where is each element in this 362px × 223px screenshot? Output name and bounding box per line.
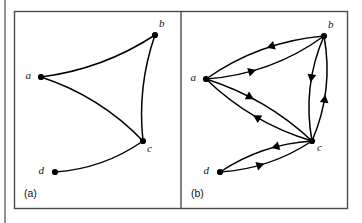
arrowhead-b-c-a (251, 111, 262, 123)
node-b-c[interactable] (309, 138, 315, 144)
node-a-d[interactable] (52, 169, 58, 175)
edge-b-a-c (206, 79, 312, 141)
edge-b-c-d (220, 141, 312, 172)
panel-caption-b: (b) (191, 187, 204, 199)
node-b-a[interactable] (203, 76, 209, 82)
arrowhead-b-c-d (270, 142, 280, 153)
node-label-a-c: c (147, 142, 152, 154)
node-b-d[interactable] (217, 169, 223, 175)
arrowhead-b-d-c (255, 160, 265, 171)
node-label-b-c: c (317, 141, 322, 153)
node-b-b[interactable] (321, 33, 327, 39)
node-label-a-d: d (39, 164, 45, 176)
arrowhead-b-b-a (265, 41, 275, 52)
node-a-c[interactable] (140, 138, 146, 144)
panel-a: abcd(a) (24, 17, 165, 199)
edge-b-c-b (312, 36, 327, 141)
edge-b-d-c (220, 141, 312, 172)
figure-canvas: abcd(a)abcd(b) (0, 0, 362, 223)
figure-graph-comparison: abcd(a)abcd(b) (0, 0, 362, 223)
edge-a-a-c (41, 77, 143, 141)
node-label-b-d: d (204, 164, 210, 176)
edge-a-a-b (41, 35, 155, 77)
node-a-a[interactable] (38, 74, 44, 80)
edge-a-d-c (55, 141, 143, 172)
edge-b-b-a (206, 36, 324, 79)
node-label-b-a: a (191, 71, 197, 83)
panel-caption-a: (a) (24, 187, 37, 199)
node-label-b-b: b (328, 18, 334, 30)
edge-b-b-c (309, 36, 324, 141)
edge-b-a-b (206, 36, 324, 79)
node-a-b[interactable] (152, 32, 158, 38)
node-label-a-a: a (26, 69, 32, 81)
node-label-a-b: b (159, 17, 165, 29)
edge-b-c-a (206, 79, 312, 141)
edge-a-b-c (142, 35, 155, 141)
arrowhead-b-a-c (245, 91, 256, 103)
panel-b: abcd(b) (191, 18, 335, 199)
arrowhead-b-a-b (247, 66, 257, 77)
